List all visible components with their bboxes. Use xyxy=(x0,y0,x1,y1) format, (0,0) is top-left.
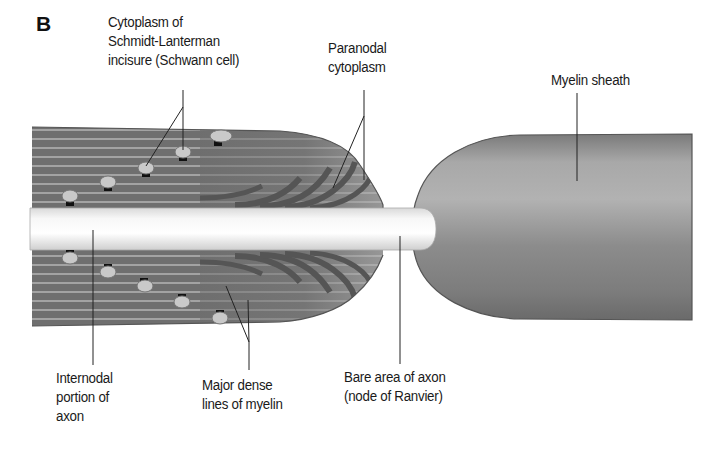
panel-letter: B xyxy=(36,12,51,36)
bottom-myelin-lamellae xyxy=(30,245,390,335)
myelin-sheath-shape xyxy=(412,134,692,320)
myelin-node-diagram: B Cytoplasm of Schmidt-Lanterman incisur… xyxy=(0,0,719,461)
label-cytoplasm-schmidt-lanterman: Cytoplasm of Schmidt-Lanterman incisure … xyxy=(108,12,239,69)
axon-shape xyxy=(30,208,436,250)
label-major-dense-lines: Major dense lines of myelin xyxy=(202,375,283,413)
label-bare-area-node: Bare area of axon (node of Ranvier) xyxy=(344,367,446,405)
label-internodal-axon: Internodal portion of axon xyxy=(56,368,113,425)
label-myelin-sheath: Myelin sheath xyxy=(551,70,630,89)
label-paranodal-cytoplasm: Paranodal cytoplasm xyxy=(328,38,386,76)
